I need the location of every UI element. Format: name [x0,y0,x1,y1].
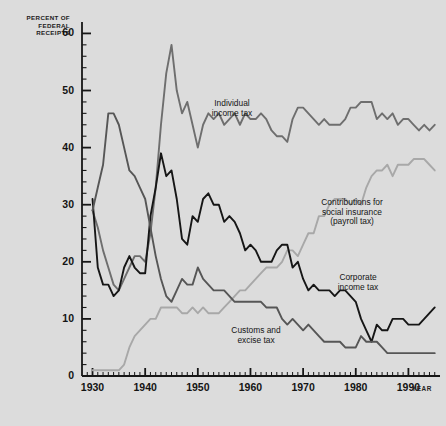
annotation-individual-line-2: income tax [186,109,278,119]
annotation-corporate-line-2: income tax [312,283,404,293]
series-line-individual-income-tax [93,45,435,291]
x-tick-label-1960: 1960 [227,381,273,393]
y-tick-label-10: 10 [50,312,74,324]
y-tick-label-0: 0 [50,369,74,381]
series-line-customs-and-excise-tax [93,113,435,353]
y-tick-label-60: 60 [50,26,74,38]
annotation-individual-income-tax: Individual income tax [186,99,278,118]
annotation-payroll-line-3: (payroll tax) [290,217,414,227]
y-tick-label-30: 30 [50,198,74,210]
annotation-corporate-income-tax: Corporate income tax [312,273,404,292]
y-tick-label-50: 50 [50,84,74,96]
annotation-customs-excise-tax: Customs and excise tax [204,326,308,345]
y-axis-title-line-1: PERCENT OF [8,14,70,22]
annotation-customs-line-2: excise tax [204,336,308,346]
y-tick-label-40: 40 [50,141,74,153]
x-tick-label-1970: 1970 [280,381,326,393]
annotation-payroll-tax: Contributions for social insurance (payr… [290,198,414,227]
x-tick-label-1940: 1940 [122,381,168,393]
series-line-corporate-income-tax [93,153,435,341]
chart-figure: PERCENT OF FEDERAL RECEIPTS 010203040506… [0,0,446,426]
y-tick-label-20: 20 [50,255,74,267]
x-tick-label-1950: 1950 [175,381,221,393]
x-tick-label-1980: 1980 [333,381,379,393]
x-axis-title: YEAR [412,385,432,392]
x-tick-label-1930: 1930 [70,381,116,393]
